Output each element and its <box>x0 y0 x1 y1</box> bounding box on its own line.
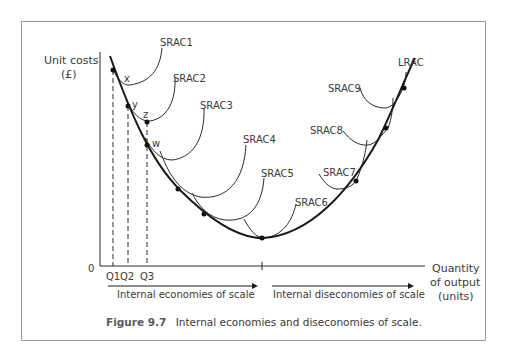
srac2-label: SRAC2 <box>173 73 206 84</box>
srac1-curve <box>113 48 162 85</box>
figure-frame <box>22 22 240 162</box>
x-axis-label-line2: of output <box>430 276 481 289</box>
point-srac9 <box>402 86 407 91</box>
point-srac5 <box>202 212 207 217</box>
point-label-x: x <box>124 73 130 84</box>
x-tick-q2: Q2 <box>120 271 134 282</box>
economies-label: Internal economies of scale <box>117 289 255 300</box>
diseconomies-label: Internal diseconomies of scale <box>273 289 425 300</box>
point-srac6 <box>260 236 265 241</box>
srac4-label: SRAC4 <box>243 134 276 145</box>
x-axis-label-line1: Quantity <box>432 262 480 275</box>
point-y <box>126 104 131 109</box>
point-srac7 <box>354 179 359 184</box>
srac8-label: SRAC8 <box>310 125 343 136</box>
x-tick-q1: Q1 <box>106 271 120 282</box>
point-srac4 <box>176 187 181 192</box>
point-q1 <box>111 68 116 73</box>
y-axis-label-line2: (£) <box>61 68 77 81</box>
y-axis-label-line1: Unit costs <box>44 54 99 67</box>
srac9-label: SRAC9 <box>328 83 361 94</box>
srac3-curve <box>145 108 204 160</box>
srac7-label: SRAC7 <box>323 167 356 178</box>
point-label-y: y <box>132 99 138 110</box>
figure-number: Figure 9.7 <box>106 316 166 328</box>
point-label-w: w <box>152 138 160 149</box>
point-w <box>145 143 150 148</box>
x-axis-label-line3: (units) <box>438 290 474 303</box>
figure-caption-text: Internal economies and diseconomies of s… <box>176 316 422 328</box>
diagram-canvas: Unit costs (£) 0 Q1 Q2 Q3 Quantity of ou… <box>0 0 519 357</box>
origin-label: 0 <box>88 263 94 274</box>
point-label-z: z <box>143 109 148 120</box>
figure-caption: Figure 9.7 Internal economies and diseco… <box>106 316 422 328</box>
point-srac8 <box>384 126 389 131</box>
srac5-label: SRAC5 <box>261 168 294 179</box>
point-z <box>145 120 150 125</box>
lrac-label: LRAC <box>398 57 424 68</box>
x-tick-q3: Q3 <box>140 271 154 282</box>
srac1-label: SRAC1 <box>160 37 193 48</box>
srac3-label: SRAC3 <box>200 100 233 111</box>
srac8-curve <box>343 128 388 145</box>
srac4-curve <box>160 145 246 197</box>
srac6-label: SRAC6 <box>295 197 328 208</box>
